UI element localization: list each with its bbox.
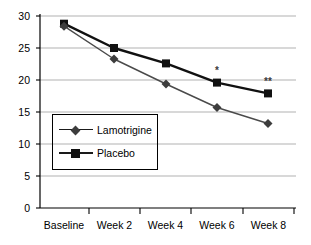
legend-item-placebo: Placebo [59,144,135,162]
y-tick-label-30: 30 [6,11,30,21]
legend-item-lamotrigine: Lamotrigine [59,121,152,139]
data-point-lamotrigine-week2 [110,55,119,64]
x-tick-label-week2: Week 2 [89,220,140,231]
x-tick-marks [89,208,294,214]
data-point-placebo-week2 [110,44,118,52]
y-tick-label-25: 25 [6,43,30,53]
y-tick-label-10: 10 [6,139,30,149]
data-point-lamotrigine-week6 [213,103,222,112]
data-point-placebo-week8 [264,89,272,97]
legend-marker-diamond-icon [59,123,93,137]
annotation-week8-significance: ** [258,77,278,86]
series-line-lamotrigine [64,26,268,123]
legend-marker-square-icon [59,146,93,160]
legend-label-placebo: Placebo [97,147,135,159]
legend-label-lamotrigine: Lamotrigine [97,124,152,136]
x-tick-label-week8: Week 8 [243,220,294,231]
x-tick-label-baseline: Baseline [39,220,89,231]
y-tick-label-5: 5 [6,171,30,181]
x-tick-label-week6: Week 6 [191,220,243,231]
data-point-lamotrigine-week4 [162,80,171,89]
x-tick-label-week4: Week 4 [140,220,191,231]
line-chart: 30 25 20 15 10 5 0 Baseline Week 2 Week … [0,0,311,245]
data-point-placebo-week4 [162,59,170,67]
data-point-placebo-week6 [213,79,221,87]
annotation-week6-significance: * [207,66,227,75]
data-point-lamotrigine-week8 [264,119,273,128]
y-tick-label-20: 20 [6,75,30,85]
y-tick-label-0: 0 [6,203,30,213]
chart-legend: Lamotrigine Placebo [52,114,158,170]
y-tick-label-15: 15 [6,107,30,117]
